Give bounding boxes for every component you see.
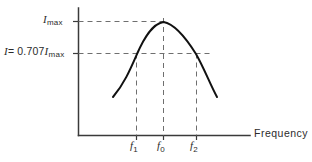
- f1-subscript: 1: [133, 145, 138, 154]
- imax-subscript: max: [47, 18, 63, 27]
- label-f0: f0: [157, 140, 165, 154]
- half-power-equation: = 0.707: [8, 45, 45, 57]
- label-imax: Imax: [43, 14, 63, 27]
- resonance-curve: [113, 22, 217, 97]
- f0-subscript: 0: [160, 145, 165, 154]
- label-f1: f1: [130, 140, 138, 154]
- resonance-curve-figure: Imax I= 0.707Imax f1 f0 f2 Frequency: [0, 0, 312, 162]
- label-half-power: I= 0.707Imax: [4, 46, 65, 59]
- label-f2: f2: [190, 140, 198, 154]
- half-power-subscript: max: [48, 50, 64, 59]
- f2-subscript: 2: [193, 145, 198, 154]
- x-axis-title: Frequency: [254, 128, 308, 139]
